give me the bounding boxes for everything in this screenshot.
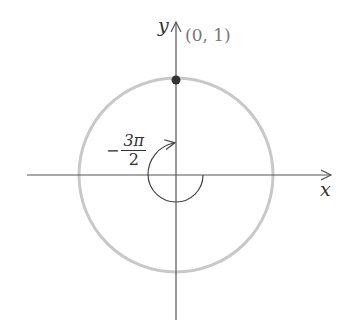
x-axis-label: x	[320, 178, 331, 200]
angle-denominator: 2	[129, 151, 139, 168]
point-0-1	[172, 76, 181, 85]
diagram-canvas	[0, 0, 351, 327]
angle-sign: −	[106, 141, 119, 160]
point-label: (0, 1)	[185, 25, 231, 45]
angle-numerator: 3π	[121, 133, 146, 151]
y-axis-label: y	[158, 14, 169, 36]
angle-fraction: 3π 2	[121, 133, 146, 168]
unit-circle-diagram: y x (0, 1) − 3π 2	[0, 0, 351, 327]
angle-label: − 3π 2	[106, 133, 146, 168]
